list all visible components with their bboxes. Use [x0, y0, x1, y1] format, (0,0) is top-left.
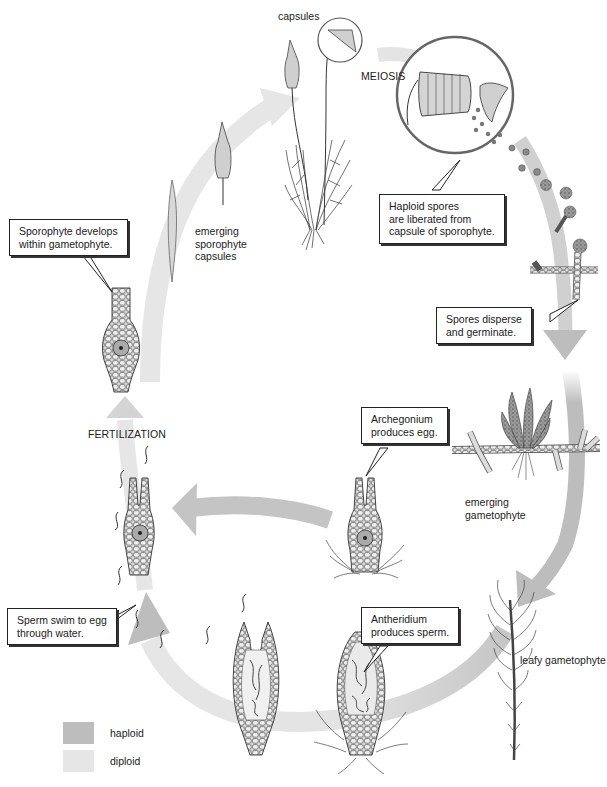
callout-line: produces egg.	[371, 426, 438, 439]
cycle-artwork	[0, 0, 607, 787]
callout-line: Antheridium	[371, 613, 449, 626]
callout-antheridium: Antheridium produces sperm.	[361, 607, 459, 644]
label-line: sporophyte	[195, 238, 247, 251]
label-line: capsules	[195, 250, 247, 263]
callout-line: capsule of sporophyte.	[389, 225, 495, 238]
callout-line: Sporophyte develops	[19, 225, 118, 238]
haploid-arrow-archegonium	[172, 483, 330, 536]
callout-line: produces sperm.	[371, 626, 449, 639]
callout-sporophyte-develops: Sporophyte develops within gametophyte.	[9, 219, 128, 256]
legend-label-haploid: haploid	[110, 727, 144, 739]
label-capsules: capsules	[278, 10, 319, 23]
label-leafy-gametophyte: leafy gametophyte	[520, 654, 606, 667]
callout-line: and germinate.	[446, 326, 522, 339]
moss-life-cycle-diagram: capsules MEIOSIS emerging sporophyte cap…	[0, 0, 607, 787]
callout-line: Haploid spores	[389, 200, 495, 213]
leafy-gametophyte-illustration	[488, 580, 536, 760]
callout-line: Sperm swim to egg	[17, 614, 107, 627]
label-fertilization: FERTILIZATION	[88, 428, 166, 441]
callout-line: through water.	[17, 627, 107, 640]
label-leafy-gametophyte-text: leafy gametophyte	[520, 654, 606, 666]
legend-label-diploid: diploid	[110, 755, 140, 767]
developing-sporophyte-illustration	[102, 288, 139, 392]
label-meiosis: MEIOSIS	[361, 70, 405, 83]
callout-line: within gametophyte.	[19, 238, 118, 251]
callout-line: Spores disperse	[446, 313, 522, 326]
archegonium-illustration	[326, 478, 404, 578]
label-emerging-gametophyte: emerging gametophyte	[465, 496, 526, 521]
haploid-arrow-right	[516, 370, 577, 607]
label-meiosis-text: MEIOSIS	[361, 70, 405, 82]
antheridium-releasing-illustration	[233, 622, 279, 755]
legend-diploid-text: diploid	[110, 755, 140, 767]
label-line: gametophyte	[465, 509, 526, 522]
label-emerging-sporophyte: emerging sporophyte capsules	[195, 225, 247, 263]
callout-sperm-swim: Sperm swim to egg through water.	[7, 608, 117, 645]
callout-archegonium: Archegonium produces egg.	[361, 407, 448, 444]
callout-haploid-spores: Haploid spores are liberated from capsul…	[379, 194, 505, 244]
legend-swatch-haploid	[63, 722, 94, 744]
capsule-release-inset	[397, 37, 513, 153]
label-line: emerging	[465, 496, 526, 509]
callout-line: Archegonium	[371, 413, 438, 426]
label-fertilization-text: FERTILIZATION	[88, 428, 166, 440]
legend-swatch-diploid	[63, 750, 94, 772]
label-line: emerging	[195, 225, 247, 238]
label-capsules-text: capsules	[278, 10, 319, 22]
legend-haploid-text: haploid	[110, 727, 144, 739]
callout-spores-disperse: Spores disperse and germinate.	[436, 307, 532, 344]
callout-line: are liberated from	[389, 213, 495, 226]
